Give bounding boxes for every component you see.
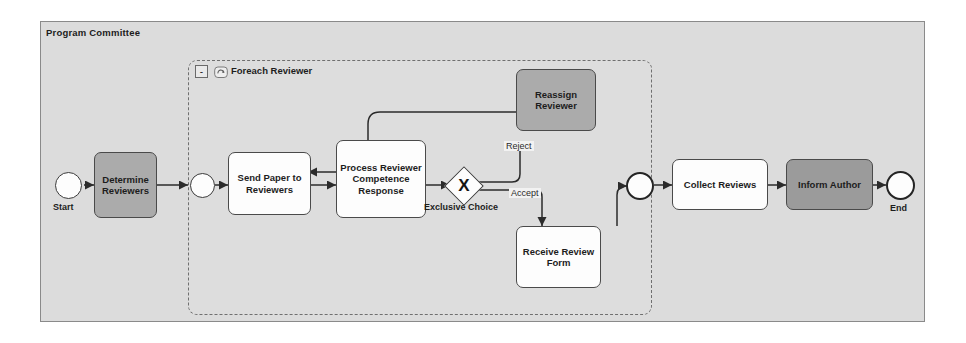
start-event[interactable] (55, 172, 82, 199)
subprocess-entry-event[interactable] (190, 173, 215, 198)
task-collect-reviews[interactable]: Collect Reviews (672, 159, 768, 210)
flow-label-reject: Reject (504, 141, 534, 151)
task-label: Inform Author (798, 179, 861, 191)
task-determine-reviewers[interactable]: Determine Reviewers (94, 152, 157, 218)
end-event-label: End (890, 203, 907, 213)
start-event-label: Start (53, 202, 74, 212)
task-label: Send Paper to Reviewers (232, 172, 307, 195)
task-label: Determine Reviewers (98, 174, 153, 197)
task-label: Collect Reviews (684, 179, 756, 191)
exclusive-gateway-marker: X (450, 171, 478, 199)
task-label: Receive Review Form (520, 246, 597, 269)
task-receive-review-form[interactable]: Receive Review Form (516, 226, 601, 288)
end-event[interactable] (886, 171, 915, 200)
task-label: Reassign Reviewer (520, 89, 592, 112)
bpmn-diagram-canvas: Program Committee - Foreach Reviewer (0, 0, 966, 343)
exclusive-gateway-label: Exclusive Choice (424, 202, 498, 212)
task-send-paper-to-reviewers[interactable]: Send Paper to Reviewers (228, 152, 311, 215)
task-inform-author[interactable]: Inform Author (786, 159, 873, 210)
task-process-reviewer-competence-response[interactable]: Process Reviewer Competence Response (336, 140, 426, 218)
subprocess-exit-event[interactable] (626, 172, 654, 200)
task-reassign-reviewer[interactable]: Reassign Reviewer (516, 69, 596, 131)
flow-label-accept: Accept (509, 188, 541, 198)
task-label: Process Reviewer Competence Response (340, 162, 422, 197)
